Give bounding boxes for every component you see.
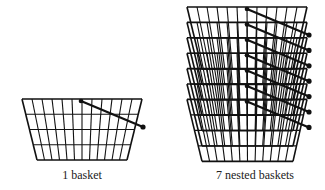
handle-pivot bbox=[245, 53, 250, 58]
handle-pivot bbox=[245, 22, 250, 27]
handle-end bbox=[306, 125, 311, 130]
caption-single-basket: 1 basket bbox=[52, 168, 112, 183]
handle-end bbox=[306, 63, 311, 68]
handle-pivot bbox=[245, 99, 250, 104]
handle-pivot bbox=[79, 99, 84, 104]
handle-pivot bbox=[245, 38, 250, 43]
handle-end bbox=[140, 124, 145, 129]
handle-end bbox=[306, 94, 311, 99]
handle-pivot bbox=[245, 68, 250, 73]
single-basket bbox=[22, 99, 146, 160]
handle-end bbox=[306, 79, 311, 84]
handle-end bbox=[306, 32, 311, 37]
caption-nested-baskets: 7 nested baskets bbox=[205, 168, 305, 183]
nested-baskets bbox=[187, 7, 312, 162]
baskets-diagram bbox=[0, 0, 325, 190]
handle-end bbox=[306, 109, 311, 114]
handle-pivot bbox=[245, 84, 250, 89]
handle-pivot bbox=[245, 7, 250, 12]
basket-column-wire bbox=[247, 99, 248, 161]
handle-end bbox=[306, 48, 311, 53]
basket-1 bbox=[22, 99, 146, 160]
